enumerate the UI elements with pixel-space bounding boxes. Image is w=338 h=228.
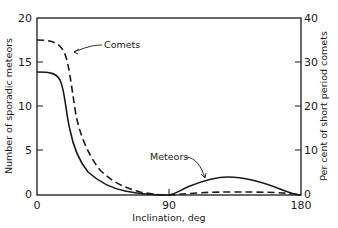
- y-right-tick-30: 30: [304, 56, 318, 69]
- y-right-tick-40: 40: [304, 12, 318, 25]
- chart: 20 15 10 5 0 40 30 20 10 0 0 90 180 Incl…: [0, 0, 338, 228]
- y-right-axis-title: Per cent of short period comets: [318, 31, 329, 181]
- x-tick-label-90: 90: [162, 199, 176, 212]
- y-left-tick-10: 10: [18, 100, 32, 113]
- comets-curve: [37, 40, 301, 195]
- meteors-curve: [37, 72, 301, 195]
- left-axis-ticks: [37, 62, 43, 150]
- y-left-tick-20: 20: [18, 12, 32, 25]
- meteors-label: Meteors: [150, 151, 188, 162]
- y-left-tick-15: 15: [18, 56, 32, 69]
- comets-leader-line: [74, 45, 102, 52]
- y-right-tick-20: 20: [304, 100, 318, 113]
- right-axis-ticks: [295, 62, 301, 150]
- x-axis-title: Inclination, deg: [132, 212, 205, 223]
- y-left-axis-title: Number of sporadic meteors: [3, 38, 14, 174]
- x-tick-label-0: 0: [34, 199, 41, 212]
- y-left-tick-0: 0: [25, 188, 32, 201]
- plot-frame: [37, 18, 301, 195]
- comets-label: Comets: [104, 39, 140, 50]
- y-left-tick-5: 5: [25, 144, 32, 157]
- y-right-tick-10: 10: [304, 144, 318, 157]
- x-tick-label-180: 180: [291, 199, 312, 212]
